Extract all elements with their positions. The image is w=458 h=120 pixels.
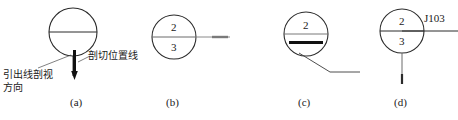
symbol-c-leader-diagonal xyxy=(299,53,330,72)
symbol-d-number-bottom: 3 xyxy=(399,35,405,47)
symbol-d-number-top: 2 xyxy=(399,15,405,27)
symbol-d-tag-label: J103 xyxy=(424,12,445,24)
leader-direction-annotation-line2: 方向 xyxy=(3,82,23,94)
symbol-b-number-top: 2 xyxy=(171,21,177,33)
leader-direction-annotation-line1: 引出线剖视 xyxy=(3,69,53,81)
engineering-symbol-figure: 2 3 2 2 3 J103 剖切位置线 引出线剖视 方向 (a) (b) (c… xyxy=(0,0,458,120)
symbol-d-group xyxy=(380,9,458,84)
cutting-plane-line-annotation: 剖切位置线 xyxy=(88,50,138,62)
figure-canvas xyxy=(0,0,458,120)
caption-d: (d) xyxy=(394,96,407,108)
caption-a: (a) xyxy=(70,96,82,108)
caption-c: (c) xyxy=(298,96,310,108)
symbol-a-annotation-leader xyxy=(38,55,71,68)
symbol-b-number-bottom: 3 xyxy=(171,41,177,53)
caption-b: (b) xyxy=(166,96,179,108)
symbol-c-group xyxy=(284,12,360,72)
symbol-a-arrowhead-icon xyxy=(71,71,78,80)
symbol-b-group xyxy=(152,15,230,59)
symbol-c-number-top: 2 xyxy=(303,19,309,31)
